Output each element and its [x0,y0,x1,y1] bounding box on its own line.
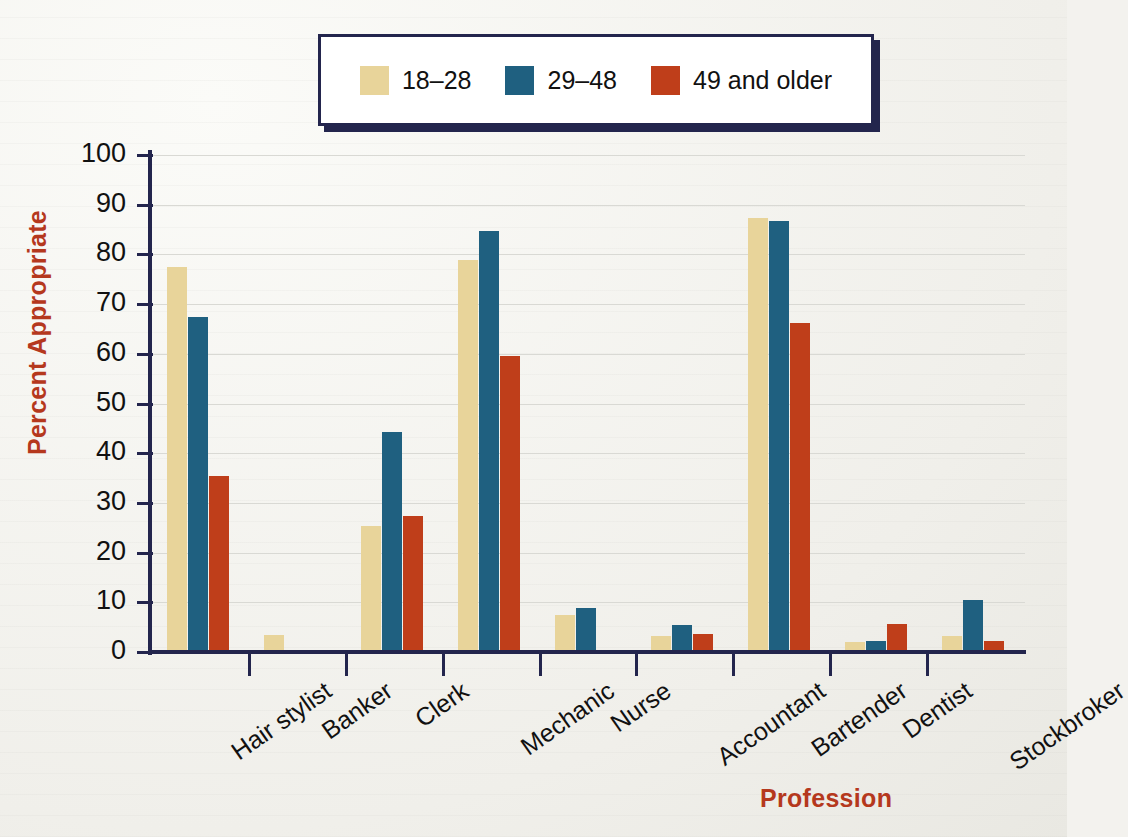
x-tick [635,654,638,676]
y-tick-90 [137,204,153,207]
bar[interactable] [555,615,575,652]
y-tick-label-90: 90 [62,190,126,217]
bar[interactable] [769,221,789,652]
y-tick-50 [137,403,153,406]
bar[interactable] [403,516,423,652]
legend-swatch-29-48 [505,66,534,95]
y-tick-label-40: 40 [62,438,126,465]
y-tick-10 [137,601,153,604]
bar[interactable] [167,267,187,652]
bar[interactable] [748,218,768,652]
bar[interactable] [458,260,478,652]
y-tick-0 [137,651,153,654]
y-tick-label-60: 60 [62,339,126,366]
bar-group [651,155,714,652]
bar-group [845,155,908,652]
x-category-label: Clerk [409,676,473,733]
bar[interactable] [209,476,229,652]
y-tick-100 [137,154,153,157]
bar[interactable] [576,608,596,652]
bar[interactable] [672,625,692,652]
x-tick [248,654,251,676]
x-category-label: Stockbroker [1004,676,1128,776]
y-tick-40 [137,452,153,455]
y-tick-label-10: 10 [62,587,126,614]
x-axis-line [148,650,1026,654]
bar[interactable] [790,323,810,652]
x-category-label: Nurse [605,676,676,738]
bar[interactable] [382,432,402,652]
bar-group [555,155,618,652]
y-tick-label-0: 0 [62,637,126,664]
x-tick [442,654,445,676]
x-category-label: Dentist [897,676,977,744]
bar[interactable] [887,624,907,652]
chart-legend: 18–28 29–48 49 and older [318,34,874,126]
bar-group [942,155,1005,652]
legend-label-29-48: 29–48 [547,66,617,95]
bar[interactable] [479,231,499,652]
y-tick-label-50: 50 [62,389,126,416]
x-tick [732,654,735,676]
bar[interactable] [361,526,381,652]
legend-label-49-and-older: 49 and older [693,66,832,95]
y-tick-80 [137,253,153,256]
bar-group [167,155,230,652]
y-tick-70 [137,303,153,306]
y-tick-label-20: 20 [62,538,126,565]
x-tick [926,654,929,676]
x-tick [539,654,542,676]
y-tick-label-70: 70 [62,289,126,316]
y-tick-label-100: 100 [62,140,126,167]
legend-swatch-49-and-older [651,66,680,95]
bar[interactable] [963,600,983,652]
x-tick [345,654,348,676]
bar-group [264,155,327,652]
bar-group [361,155,424,652]
x-category-label: Mechanic [515,676,619,761]
y-tick-20 [137,552,153,555]
legend-item-1[interactable]: 29–48 [505,66,617,95]
legend-swatch-18-28 [360,66,389,95]
bar-group [458,155,521,652]
y-axis-title: Percent Appropriate [23,168,52,498]
x-tick [829,654,832,676]
plot-area [153,155,1025,652]
x-category-label: Accountant [712,676,831,772]
bar[interactable] [500,356,520,652]
x-axis-title: Profession [760,784,892,813]
y-tick-60 [137,353,153,356]
bar[interactable] [188,317,208,652]
y-tick-label-30: 30 [62,488,126,515]
y-tick-label-80: 80 [62,239,126,266]
legend-item-0[interactable]: 18–28 [360,66,472,95]
y-tick-30 [137,502,153,505]
x-category-label: Banker [316,676,398,745]
bar-group [748,155,811,652]
legend-label-18-28: 18–28 [402,66,472,95]
legend-item-2[interactable]: 49 and older [651,66,832,95]
